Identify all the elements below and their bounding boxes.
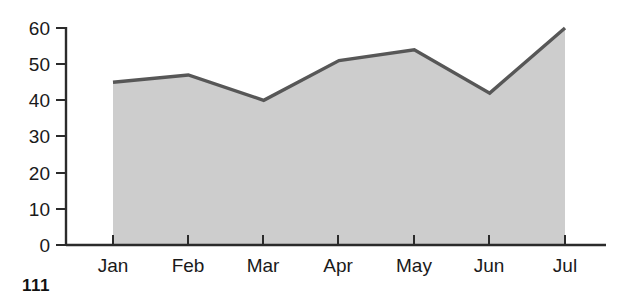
x-tick-label: Apr xyxy=(323,255,353,276)
y-tick-label: 50 xyxy=(29,54,50,75)
y-tick-label: 0 xyxy=(39,235,50,256)
y-tick-label: 30 xyxy=(29,126,50,147)
x-tick-label: Feb xyxy=(172,255,205,276)
area-chart: 60 50 40 30 20 10 0 Jan Feb Mar Apr May … xyxy=(0,0,633,304)
y-tick-label: 20 xyxy=(29,163,50,184)
y-tick-label: 60 xyxy=(29,18,50,39)
x-tick-label: Jul xyxy=(553,255,577,276)
figure-root: 60 50 40 30 20 10 0 Jan Feb Mar Apr May … xyxy=(0,0,633,304)
y-tick-label: 40 xyxy=(29,90,50,111)
x-tick-label: Jun xyxy=(474,255,505,276)
x-tick-label: Jan xyxy=(98,255,129,276)
y-tick-label: 10 xyxy=(29,199,50,220)
x-tick-label: May xyxy=(396,255,432,276)
x-tick-label: Mar xyxy=(247,255,280,276)
page-number: 111 xyxy=(22,276,50,296)
